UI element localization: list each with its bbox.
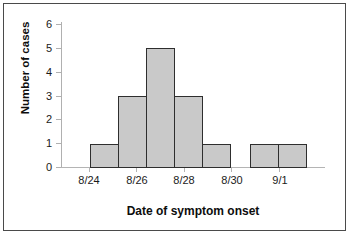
- bar-8-27: [146, 48, 175, 168]
- bar-8-25: [90, 144, 119, 168]
- bar-9-1: [278, 144, 307, 168]
- y-tick-mark-3: [56, 96, 61, 97]
- x-tick-label-0: 8/24: [69, 174, 109, 186]
- x-tick-mark-3: [231, 167, 232, 172]
- x-axis-title: Date of symptom onset: [61, 204, 325, 218]
- y-axis-line: [61, 22, 62, 168]
- bar-8-31: [250, 144, 279, 168]
- chart-page: Number of cases Date of symptom onset 0 …: [0, 0, 358, 234]
- x-tick-label-2: 8/28: [164, 174, 204, 186]
- bar-8-28: [174, 96, 203, 168]
- y-tick-label-2: 2: [38, 114, 52, 125]
- bar-8-26: [118, 96, 147, 168]
- y-tick-label-4: 4: [38, 67, 52, 78]
- chart-frame-border: Number of cases Date of symptom onset 0 …: [3, 3, 346, 231]
- y-tick-mark-1: [56, 143, 61, 144]
- x-tick-label-4: 9/1: [260, 174, 300, 186]
- y-tick-mark-5: [56, 48, 61, 49]
- y-tick-label-0: 0: [38, 162, 52, 173]
- y-tick-label-5: 5: [38, 43, 52, 54]
- y-tick-label-1: 1: [38, 138, 52, 149]
- x-tick-label-1: 8/26: [117, 174, 157, 186]
- y-tick-mark-2: [56, 119, 61, 120]
- y-tick-mark-6: [56, 24, 61, 25]
- y-tick-mark-4: [56, 72, 61, 73]
- y-tick-label-3: 3: [38, 91, 52, 102]
- x-tick-label-3: 8/30: [212, 174, 252, 186]
- y-axis-title: Number of cases: [19, 13, 31, 123]
- bar-8-29: [202, 144, 231, 168]
- y-tick-mark-0: [56, 167, 61, 168]
- y-tick-label-6: 6: [38, 19, 52, 30]
